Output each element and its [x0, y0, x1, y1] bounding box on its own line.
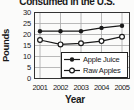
y-tick-label: 20	[23, 30, 31, 39]
data-point-open	[58, 42, 63, 47]
legend-marker-dot	[70, 68, 75, 73]
legend-label: Apple Juice	[83, 54, 120, 65]
data-point-filled	[79, 29, 83, 33]
data-point-filled	[120, 24, 124, 28]
data-point-filled	[58, 29, 62, 33]
y-tick-label: 10	[23, 52, 31, 61]
open-circle-marker-icon	[64, 66, 80, 75]
data-point-filled	[99, 26, 103, 30]
filled-circle-marker-icon	[64, 55, 80, 64]
x-axis-label: Year	[16, 94, 134, 105]
data-point-open	[120, 34, 125, 39]
consumption-line-chart: Consumed in the U.S. Pounds 051015202530…	[0, 0, 134, 110]
y-tick-label: 25	[23, 19, 31, 28]
legend-marker-dot	[70, 57, 74, 61]
data-point-open	[79, 41, 84, 46]
x-tick-label: 2001	[32, 83, 47, 92]
x-tick-label: 2003	[73, 83, 88, 92]
x-tick-label: 2002	[53, 83, 68, 92]
data-point-open	[38, 38, 43, 43]
x-tick-label: 2004	[94, 83, 109, 92]
legend-item: Raw Apples	[64, 65, 125, 76]
data-point-open	[99, 39, 104, 44]
data-point-filled	[38, 29, 42, 33]
y-tick-label: 5	[27, 63, 31, 72]
legend-item: Apple Juice	[64, 54, 125, 65]
y-tick-label: 30	[23, 8, 31, 17]
legend: Apple JuiceRaw Apples	[61, 52, 128, 78]
y-tick-label: 0	[27, 74, 31, 83]
x-tick-label: 2005	[114, 83, 129, 92]
y-tick-label: 15	[23, 41, 31, 50]
legend-label: Raw Apples	[83, 65, 121, 76]
